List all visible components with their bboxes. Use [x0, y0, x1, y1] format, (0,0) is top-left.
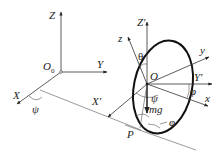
label-X: X	[12, 89, 21, 101]
phi-arc-lower	[148, 124, 160, 128]
label-Y-prime: Y'	[194, 71, 203, 83]
phi-arc-upper	[187, 84, 189, 98]
label-mg: mg	[149, 103, 163, 115]
label-psi-fixed: ψ	[32, 103, 39, 115]
label-O: O	[150, 70, 158, 82]
label-phi-upper: φ	[190, 85, 196, 97]
label-Z-prime: Z'	[137, 16, 146, 28]
phi-leader	[160, 122, 167, 124]
fixed-frame: Z Y X O0	[12, 9, 107, 104]
label-x: x	[204, 92, 210, 104]
label-y: y	[199, 44, 205, 56]
axis-X-prime	[108, 84, 147, 117]
tangent-line	[125, 125, 196, 150]
line-of-nodes	[40, 90, 141, 130]
radius-to-P	[140, 84, 147, 128]
euler-angle-diagram: Z Y X O0 X' ψ Z' z θ y Y' x φ O ψ mg φ P	[0, 0, 220, 156]
label-X-prime: X'	[91, 95, 102, 107]
origin-O0-dot	[60, 71, 63, 74]
label-O0: O0	[43, 60, 55, 75]
label-Y: Y	[97, 58, 105, 70]
label-Z: Z	[49, 9, 56, 21]
label-phi-lower: φ	[169, 116, 175, 128]
label-theta: θ	[138, 50, 143, 62]
psi-arc-fixed	[29, 96, 42, 100]
label-P: P	[126, 128, 134, 140]
label-z: z	[117, 32, 123, 44]
